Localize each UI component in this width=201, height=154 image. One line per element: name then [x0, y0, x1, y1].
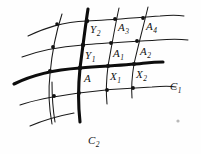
u-parameter-curve-family — [14, 15, 188, 126]
label-point-a1: A1 — [113, 48, 123, 59]
scan-speck — [176, 119, 179, 122]
u-curve-second — [22, 39, 188, 57]
figure-canvas: A X1 X2 Y1 Y2 A1 A2 A3 A4 C1 C2 — [0, 0, 201, 154]
label-curve-c2: C2 — [88, 135, 99, 146]
node-dot-left-upper — [55, 22, 59, 26]
node-dot-b2 — [77, 91, 81, 95]
node-dot-A — [78, 66, 83, 71]
diagram-svg — [0, 0, 201, 154]
label-point-a: A — [84, 73, 91, 84]
label-point-a2: A2 — [140, 46, 150, 57]
label-point-a4: A4 — [146, 21, 156, 32]
node-dot-A3 — [113, 17, 117, 21]
node-dot-X2 — [132, 62, 136, 66]
node-dot-A2 — [135, 39, 139, 43]
node-dot-Y1 — [81, 43, 85, 47]
node-dot-A4 — [141, 16, 145, 20]
label-point-a3: A3 — [118, 22, 128, 33]
node-dot-left-lower — [48, 69, 52, 73]
node-dot-b4 — [131, 86, 135, 90]
node-dot-b3 — [105, 88, 109, 92]
node-dot-left-mid — [51, 45, 55, 49]
v-curve-left-lower-stub — [52, 82, 55, 122]
label-point-x2: X2 — [136, 69, 146, 80]
v-curve-c2-thick — [79, 9, 89, 122]
node-dot-X1 — [106, 64, 110, 68]
node-dot-b1 — [52, 94, 56, 98]
label-point-y2: Y2 — [90, 24, 100, 35]
u-curve-fourth — [20, 86, 176, 105]
label-point-y1: Y1 — [85, 50, 95, 61]
label-point-x1: X1 — [110, 71, 120, 82]
node-dot-Y2 — [85, 19, 89, 23]
label-curve-c1: C1 — [170, 81, 181, 92]
u-curve-top — [28, 15, 184, 36]
node-dot-A1 — [109, 41, 113, 45]
